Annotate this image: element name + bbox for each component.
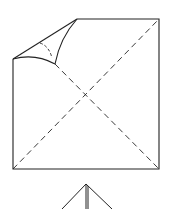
diagonal-crease-1	[55, 64, 159, 169]
diagonal-crease-2	[13, 19, 159, 169]
folding-corner-flap	[13, 19, 77, 64]
origami-diagram	[0, 0, 169, 209]
next-step-figure	[62, 184, 112, 209]
